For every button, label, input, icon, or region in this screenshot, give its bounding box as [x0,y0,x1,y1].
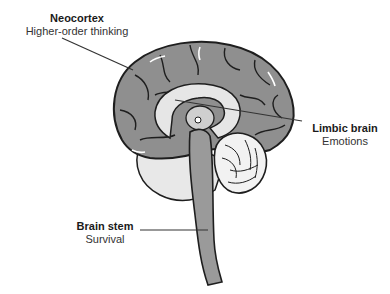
limbic-label: Limbic brain Emotions [305,122,385,148]
neocortex-subtitle: Higher-order thinking [12,25,142,38]
brainstem-title: Brain stem [72,220,138,233]
brainstem-subtitle: Survival [72,233,138,246]
neocortex-label: Neocortex Higher-order thinking [12,12,142,38]
neocortex-leader [62,38,133,70]
limbic-subtitle: Emotions [305,135,385,148]
limbic-title: Limbic brain [305,122,385,135]
brainstem-label: Brain stem Survival [72,220,138,246]
neocortex-title: Neocortex [12,12,142,25]
